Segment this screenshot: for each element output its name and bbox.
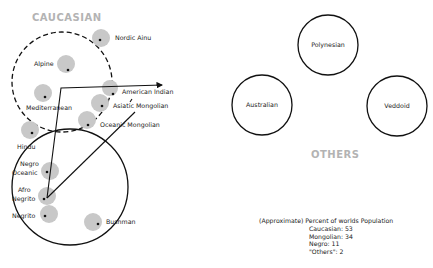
label-negro: Negro — [20, 160, 39, 168]
caucasian-title: CAUCASIAN — [32, 12, 102, 23]
label-oceanic: Oceanic — [12, 169, 38, 176]
label-negrito: Negrito — [12, 212, 35, 220]
label-american-indian: American Indian — [122, 88, 173, 95]
others-title: OTHERS — [311, 149, 359, 160]
label-mediterranean: Mediterranean — [26, 104, 72, 111]
bushman-node — [84, 213, 102, 231]
caucasian-dashed-circle — [12, 32, 112, 132]
hindu-node — [21, 121, 39, 139]
population-heading: (Approximate) Percent of worlds Populati… — [259, 217, 393, 225]
label-asiatic-mongolian: Asiatic Mongolian — [113, 102, 168, 110]
population-row: Negro: 11 — [309, 240, 393, 248]
population-row: Mongolian: 34 — [309, 233, 393, 241]
label-veddoid: Veddoid — [384, 102, 409, 109]
negrito-node — [40, 205, 58, 223]
population-legend: (Approximate) Percent of worlds Populati… — [259, 217, 393, 256]
label-australian: Australian — [246, 101, 278, 108]
label-polynesian: Polynesian — [311, 41, 345, 49]
label-nordic-ainu: Nordic Ainu — [115, 34, 151, 41]
asiatic-mongolian-node — [91, 94, 109, 112]
nordic-ainu-node — [92, 29, 110, 47]
label-negrito-afro: Negrito — [12, 195, 35, 203]
population-row: "Others": 2 — [309, 248, 393, 256]
population-row: Caucasian: 53 — [309, 225, 393, 233]
label-alpine: Alpine — [34, 60, 54, 68]
label-bushman: Bushman — [106, 218, 136, 225]
label-oceanic-mongolian: Oceanic Mongolian — [100, 121, 160, 129]
label-hindu: Hindu — [17, 143, 35, 150]
alpine-node — [57, 55, 75, 73]
label-afro: Afro — [18, 186, 31, 193]
oceanic-mongolian-node — [78, 111, 96, 129]
american-indian-node — [102, 80, 118, 96]
mediterranean-node — [34, 84, 52, 102]
